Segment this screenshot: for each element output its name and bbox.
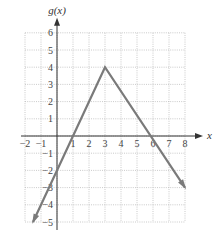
y-tick-label: −1: [42, 148, 53, 159]
x-axis-arrow-icon: [195, 133, 203, 139]
y-tick-label: 3: [48, 79, 53, 90]
x-axis-label: x: [206, 129, 212, 141]
x-tick-label: 8: [183, 138, 188, 149]
x-tick-label: 3: [103, 138, 108, 149]
y-axis-arrow-icon: [54, 18, 60, 26]
function-line: [32, 67, 186, 224]
x-tick-label: 2: [87, 138, 92, 149]
y-tick-label: 2: [48, 96, 53, 107]
x-tick-label: −2: [20, 138, 31, 149]
y-tick-label: −5: [42, 217, 53, 228]
y-tick-label: −2: [42, 165, 53, 176]
x-tick-label: 7: [167, 138, 172, 149]
x-tick-label: 4: [119, 138, 124, 149]
y-tick-label: 1: [48, 113, 53, 124]
line-arrowhead-icon: [32, 213, 39, 223]
y-axis-label: g(x): [48, 4, 66, 17]
function-graph: −2−112345678654321−1−2−3−4−5 x g(x): [0, 0, 217, 236]
y-tick-label: 6: [48, 27, 53, 38]
function-line-path: [33, 67, 185, 222]
x-tick-label: 5: [135, 138, 140, 149]
y-tick-label: 4: [48, 62, 53, 73]
y-tick-label: 5: [48, 45, 53, 56]
